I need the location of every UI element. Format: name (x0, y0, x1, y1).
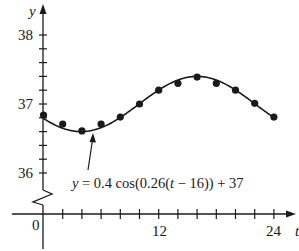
equation-body: = 0.4 cos(0.26( (78, 175, 170, 192)
data-points (40, 73, 278, 134)
data-point (174, 80, 181, 87)
y-tick-label-36: 36 (18, 165, 34, 181)
y-axis-label: y (27, 3, 36, 19)
axis-break-icon (33, 190, 52, 205)
x-tick-label-24: 24 (266, 223, 282, 239)
y-axis-arrow-icon (40, 4, 47, 14)
data-point (98, 120, 105, 127)
data-point (78, 127, 85, 134)
annotation-arrow (88, 140, 93, 170)
annotation-arrowhead-icon (90, 133, 97, 143)
data-point (251, 100, 258, 107)
data-point (155, 87, 162, 94)
y-tick-label-37: 37 (18, 96, 34, 112)
x-tick-label-0: 0 (32, 217, 40, 233)
model-curve (44, 76, 274, 131)
chart: y 38 37 36 0 12 24 t y = 0.4 cos(0.26(t … (0, 0, 299, 251)
equation-label: y = 0.4 cos(0.26(t − 16)) + 37 (70, 175, 244, 192)
data-point (136, 100, 143, 107)
data-point (40, 111, 47, 118)
data-point (117, 114, 124, 121)
axes (12, 8, 290, 249)
x-axis-arrow-icon (286, 211, 296, 218)
equation-suffix: − 16)) + 37 (174, 175, 244, 192)
data-point (270, 114, 277, 121)
data-point (213, 80, 220, 87)
data-point (194, 73, 201, 80)
x-tick-label-12: 12 (152, 223, 167, 239)
data-point (59, 120, 66, 127)
y-tick-label-38: 38 (18, 27, 33, 43)
x-axis-label: t (295, 223, 299, 239)
data-point (232, 87, 239, 94)
